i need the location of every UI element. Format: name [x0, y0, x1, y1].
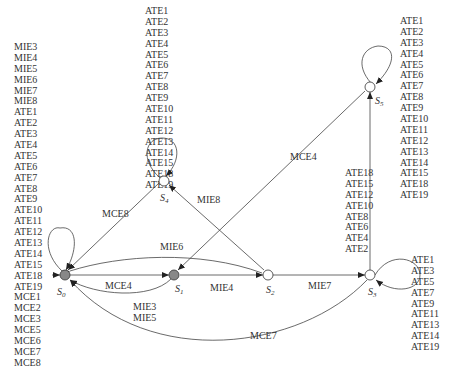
- state-s3: [365, 270, 375, 280]
- edge-label-mie3: MIE3: [133, 301, 156, 312]
- edge-label-mce8: MCE8: [102, 208, 129, 219]
- state-label-s5: S5: [375, 95, 384, 108]
- edge-label-mie7: MIE7: [308, 280, 331, 291]
- state-label-s1: S1: [175, 283, 184, 296]
- edge-label-mie5: MIE5: [133, 312, 156, 323]
- edge-label-mie8: MIE8: [197, 194, 220, 205]
- edge-s2-s0: [70, 257, 262, 273]
- s3-self-loop: [375, 259, 420, 289]
- state-label-s2: S2: [266, 284, 275, 297]
- s5-self-loop: [362, 46, 392, 84]
- state-s4: [159, 176, 169, 186]
- edge-s4-s0: [68, 183, 159, 270]
- state-s2: [263, 270, 273, 280]
- state-s0: [60, 270, 70, 280]
- edge-label-mce4-diagonal: MCE4: [290, 151, 317, 162]
- state-diagram: S0 S1 S2 S3 S4 S5 MCE4 MIE3 MIE5 MIE4 MI…: [0, 0, 463, 370]
- edge-s5-s1: [178, 91, 365, 270]
- edge-label-mie4: MIE4: [210, 282, 233, 293]
- edge-label-mce4: MCE4: [105, 280, 132, 291]
- s4-self-loop: [147, 138, 177, 178]
- state-s1: [169, 270, 179, 280]
- s0-self-loop: [48, 228, 74, 271]
- edge-label-mce7: MCE7: [250, 330, 277, 341]
- state-label-s4: S4: [160, 192, 169, 205]
- state-s5: [365, 82, 375, 92]
- edge-label-mie6: MIE6: [160, 241, 183, 252]
- state-label-s0: S0: [57, 286, 66, 299]
- state-label-s3: S3: [368, 286, 377, 299]
